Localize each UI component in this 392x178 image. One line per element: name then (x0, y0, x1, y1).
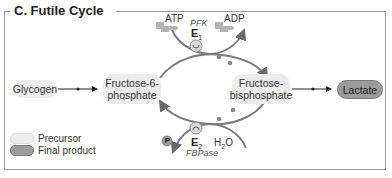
node-fructose-6-phosphate: Fructose-6- phosphate (103, 74, 161, 104)
legend-precursor: Precursor (10, 133, 81, 144)
node-fbp-line2: bisphosphate (230, 89, 292, 101)
enzyme-e1-icon (190, 40, 202, 52)
label-h2o: H2O (214, 137, 233, 150)
node-glycogen: Glycogen (13, 80, 57, 98)
label-e1: E1 (191, 27, 202, 41)
node-lactate: Lactate (337, 80, 383, 99)
legend-swatch-final (10, 145, 34, 156)
phosphate-dot-icon (217, 55, 222, 60)
label-p: P (164, 136, 171, 145)
legend-final-product: Final product (10, 145, 96, 156)
legend-label-precursor: Precursor (38, 133, 81, 144)
label-adp: ADP (224, 13, 245, 24)
node-fructose-bisphosphate: Fructose- bisphosphate (232, 74, 290, 104)
phosphate-dot-icon (217, 117, 222, 122)
node-f6p-line2: phosphate (107, 89, 156, 101)
arc-atp-adp (172, 30, 244, 54)
node-fbp-line1: Fructose- (239, 77, 283, 89)
legend-label-final: Final product (38, 145, 96, 156)
enzyme-e2-icon (190, 122, 202, 134)
phosphate-dot-icon (228, 61, 233, 66)
phosphate-dot-icon (231, 108, 236, 113)
legend-swatch-precursor (10, 133, 34, 144)
node-f6p-line1: Fructose-6- (105, 77, 159, 89)
label-atp: ATP (165, 13, 184, 24)
